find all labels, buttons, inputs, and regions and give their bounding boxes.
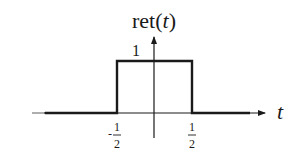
svg-text:2: 2 xyxy=(189,137,195,151)
rect-function-diagram: ret(t) 1 t - 1 2 1 2 xyxy=(0,0,301,156)
x-axis-label: t xyxy=(277,99,284,124)
svg-text:1: 1 xyxy=(114,120,120,134)
function-title: ret(t) xyxy=(132,8,176,33)
rect-function-plot xyxy=(45,61,250,113)
height-label: 1 xyxy=(132,42,140,59)
right-tick-label: 1 2 xyxy=(188,120,196,151)
svg-text:2: 2 xyxy=(114,137,120,151)
left-tick-label: - 1 2 xyxy=(108,120,121,151)
svg-text:-: - xyxy=(108,127,112,141)
svg-text:1: 1 xyxy=(189,120,195,134)
